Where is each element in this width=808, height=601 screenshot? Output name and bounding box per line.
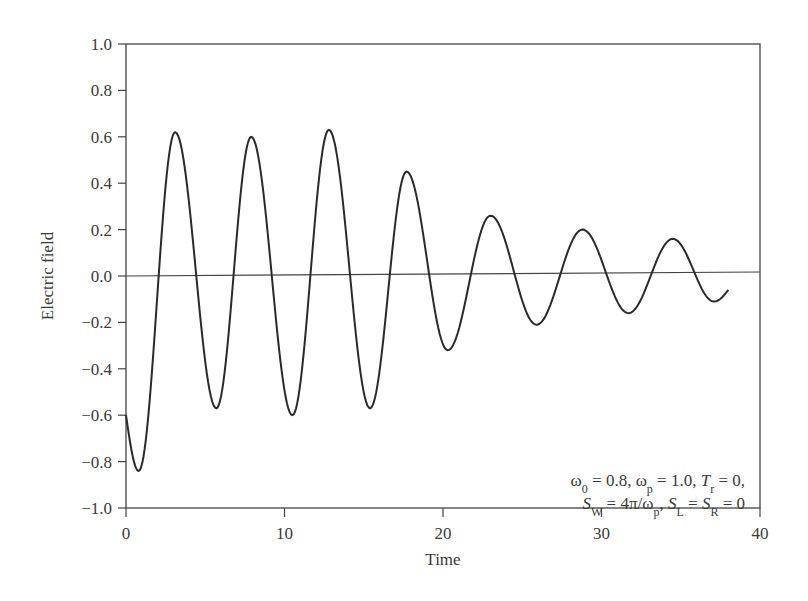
y-tick-label: −0.4 [81,360,112,379]
electric-field-curve [126,130,728,471]
svg-text:ω0 = 0.8, ωp = 1.0, Tr = 0,: ω0 = 0.8, ωp = 1.0, Tr = 0, [571,471,745,496]
parameter-annotation: ω0 = 0.8, ωp = 1.0, Tr = 0, SW = 4π/ωp, … [571,471,745,519]
x-axis-ticks: 010203040 [122,508,769,543]
y-tick-label: −1.0 [81,499,112,518]
y-tick-label: 0.8 [91,81,112,100]
y-axis-label: Electric field [38,231,57,320]
x-tick-label: 0 [122,524,131,543]
x-tick-label: 30 [593,524,610,543]
y-tick-label: −0.6 [81,406,112,425]
y-tick-label: 0.6 [91,128,112,147]
y-tick-label: 1.0 [91,35,112,54]
plot-frame [126,44,760,508]
y-axis-ticks: 1.00.80.60.40.20.0−0.2−0.4−0.6−0.8−1.0 [81,35,126,518]
chart: 1.00.80.60.40.20.0−0.2−0.4−0.6−0.8−1.0 0… [0,0,808,601]
y-tick-label: 0.2 [91,221,112,240]
x-axis-label: Time [425,550,460,569]
y-tick-label: −0.2 [81,313,112,332]
svg-text:SW = 4π/ωp, SL = SR = 0: SW = 4π/ωp, SL = SR = 0 [583,494,745,519]
y-tick-label: −0.8 [81,453,112,472]
y-tick-label: 0.4 [91,174,113,193]
x-tick-label: 10 [276,524,293,543]
zero-line [126,272,760,276]
x-tick-label: 40 [752,524,769,543]
x-tick-label: 20 [435,524,452,543]
y-tick-label: 0.0 [91,267,112,286]
